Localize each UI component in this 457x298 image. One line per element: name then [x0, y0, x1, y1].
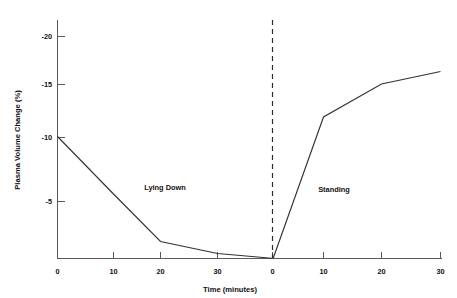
axes-group	[57, 20, 442, 259]
x-left-tick-label-0: 0	[55, 267, 59, 276]
annotation-standing: Standing	[318, 185, 350, 194]
data-line-standing	[273, 72, 440, 259]
y-tick-label-minus10: -10	[41, 133, 52, 142]
x-axis-ticks-standing: 0 10 20 30	[270, 252, 444, 277]
y-tick-label-minus20: -20	[41, 32, 52, 41]
x-right-tick-label-30: 30	[436, 267, 444, 276]
y-tick-label-minus15: -15	[41, 80, 52, 89]
x-right-tick-label-10: 10	[319, 267, 327, 276]
y-axis-title: Plasma Volume Change (%)	[13, 90, 22, 190]
y-tick-label-minus5: -5	[46, 197, 53, 206]
y-axis-ticks: -20 -15 -10 -5	[41, 32, 64, 206]
annotation-lying-down: Lying Down	[144, 183, 186, 192]
x-right-tick-label-20: 20	[377, 267, 385, 276]
x-right-tick-label-0: 0	[270, 267, 274, 276]
chart-figure: -20 -15 -10 -5 0 10 20 30 0 10 20 30	[0, 0, 457, 298]
x-left-tick-label-30: 30	[213, 267, 221, 276]
x-axis-title: Time (minutes)	[203, 285, 257, 294]
x-left-tick-label-10: 10	[109, 267, 117, 276]
data-line-lying-down	[58, 137, 272, 259]
x-axis-ticks-lying-down: 0 10 20 30	[55, 252, 221, 277]
plasma-volume-line-chart: -20 -15 -10 -5 0 10 20 30 0 10 20 30	[0, 0, 457, 298]
x-left-tick-label-20: 20	[156, 267, 164, 276]
